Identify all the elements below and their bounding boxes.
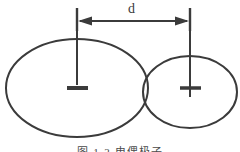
figure-container: d 图 1-2 电偶极子 bbox=[0, 0, 240, 152]
dimension-arrowhead-right bbox=[175, 17, 189, 26]
dimension-label-d: d bbox=[128, 2, 135, 16]
figure-caption: 图 1-2 电偶极子 bbox=[0, 143, 240, 152]
dipole-diagram bbox=[0, 0, 240, 152]
dimension-arrowhead-left bbox=[78, 17, 92, 26]
